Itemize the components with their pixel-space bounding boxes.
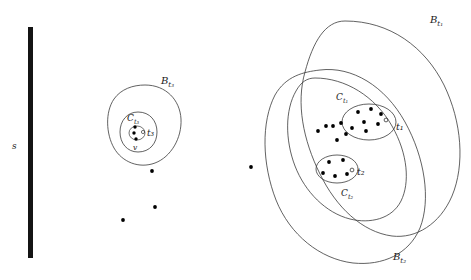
label-s: s	[12, 141, 17, 151]
label-b-t2: Bt₂	[392, 251, 406, 265]
label-t2: t₂	[357, 166, 365, 177]
vertical-bar-s	[28, 27, 33, 258]
cluster-ring-t1	[342, 104, 396, 140]
points-cluster-t1	[350, 107, 388, 133]
label-c-t3: Ct₃	[127, 113, 140, 126]
points-cluster-t2	[321, 158, 354, 178]
label-c-t1: Ct₁	[336, 92, 348, 105]
points-outside-t1	[316, 121, 348, 142]
set-diagram: s Bt₃ Ct₃ t₃ v Bt₁ Bt₂ Ct₁ Ct₂	[0, 0, 471, 280]
points-isolated	[121, 165, 253, 222]
blob-b-t1	[301, 21, 460, 236]
label-v: v	[133, 143, 138, 152]
blob-b-t3	[108, 85, 181, 165]
label-b-t1: Bt₁	[429, 14, 443, 28]
cluster-ring-t2	[316, 155, 358, 183]
label-b-t3: Bt₃	[160, 75, 174, 89]
label-c-t2: Ct₂	[341, 188, 354, 201]
label-t1: t₁	[396, 121, 404, 132]
points-cluster-t3	[132, 125, 144, 140]
label-t3: t₃	[147, 128, 155, 138]
